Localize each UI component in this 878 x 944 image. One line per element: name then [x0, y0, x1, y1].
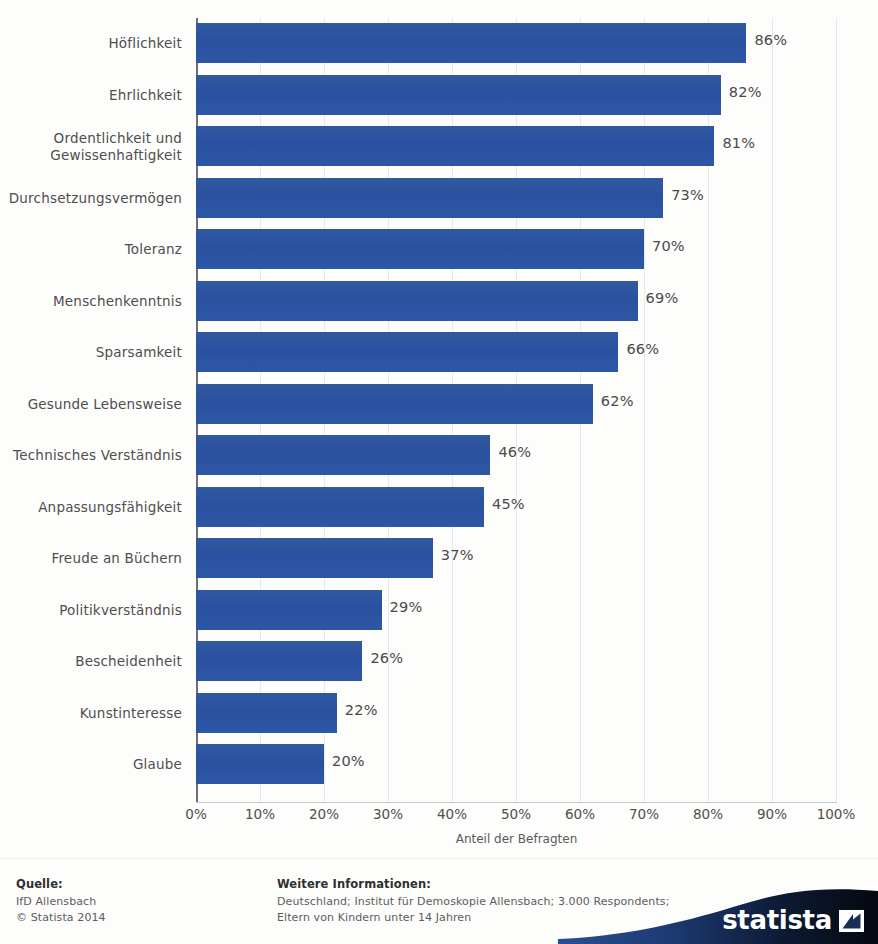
source-block: Quelle: IfD Allensbach © Statista 2014	[16, 877, 106, 925]
category-label: Sparsamkeit	[0, 327, 182, 379]
x-axis-line	[196, 802, 837, 803]
bar-value-label: 82%	[729, 84, 762, 100]
bar	[196, 590, 382, 630]
bar-value-label: 26%	[370, 650, 403, 666]
bar-value-label: 81%	[722, 135, 755, 151]
category-label: Freude an Büchern	[0, 533, 182, 585]
category-label: Bescheidenheit	[0, 636, 182, 688]
bar-value-label: 73%	[671, 187, 704, 203]
bar-value-label: 70%	[652, 238, 685, 254]
category-label: Durchsetzungsvermögen	[0, 173, 182, 225]
bar-chart: HöflichkeitEhrlichkeitOrdentlichkeit und…	[0, 0, 878, 855]
bar	[196, 332, 618, 372]
bar	[196, 75, 721, 115]
bar	[196, 538, 433, 578]
bar-rows: 86%82%81%73%70%69%66%62%46%45%37%29%26%2…	[196, 18, 878, 802]
bar	[196, 384, 593, 424]
x-tick-label: 70%	[629, 806, 659, 822]
category-label: Technisches Verständnis	[0, 430, 182, 482]
logo-wordmark: statista	[722, 905, 832, 935]
x-tick-label: 30%	[373, 806, 403, 822]
statista-chart-page: HöflichkeitEhrlichkeitOrdentlichkeit und…	[0, 0, 878, 944]
category-label: Politikverständnis	[0, 585, 182, 637]
category-label: Glaube	[0, 739, 182, 791]
bar	[196, 744, 324, 784]
bar-value-label: 37%	[441, 547, 474, 563]
bar-value-label: 29%	[390, 599, 423, 615]
x-axis-ticks: 0%10%20%30%40%50%60%70%80%90%100%	[196, 806, 837, 828]
bar	[196, 126, 714, 166]
x-tick-label: 60%	[565, 806, 595, 822]
bar-value-label: 86%	[754, 32, 787, 48]
bar-row: 70%	[196, 224, 878, 276]
bar	[196, 693, 337, 733]
category-label: Toleranz	[0, 224, 182, 276]
bar	[196, 281, 638, 321]
bar-value-label: 62%	[601, 393, 634, 409]
bar-row: 46%	[196, 430, 878, 482]
bar-row: 66%	[196, 327, 878, 379]
category-label: Gesunde Lebensweise	[0, 379, 182, 431]
x-tick-label: 10%	[245, 806, 275, 822]
bar-row: 62%	[196, 379, 878, 431]
category-label: Höflichkeit	[0, 18, 182, 70]
x-tick-label: 80%	[693, 806, 723, 822]
bar-row: 86%	[196, 18, 878, 70]
bar	[196, 178, 663, 218]
bar-value-label: 20%	[332, 753, 365, 769]
x-axis-title: Anteil der Befragten	[196, 832, 837, 846]
logo-arrow-icon	[839, 910, 864, 932]
bar-row: 82%	[196, 70, 878, 122]
category-label: Menschenkenntnis	[0, 276, 182, 328]
bar-value-label: 45%	[492, 496, 525, 512]
bar-row: 81%	[196, 121, 878, 173]
category-axis-labels: HöflichkeitEhrlichkeitOrdentlichkeit und…	[0, 18, 182, 802]
bar-value-label: 46%	[498, 444, 531, 460]
bar	[196, 435, 490, 475]
bar-row: 73%	[196, 173, 878, 225]
source-line: IfD Allensbach	[16, 894, 106, 910]
x-tick-label: 0%	[185, 806, 206, 822]
bar-row: 22%	[196, 688, 878, 740]
bar-row: 37%	[196, 533, 878, 585]
bar-value-label: 66%	[626, 341, 659, 357]
bar-row: 29%	[196, 585, 878, 637]
category-label: Kunstinteresse	[0, 688, 182, 740]
x-tick-label: 20%	[309, 806, 339, 822]
category-label: Ordentlichkeit und Gewissenhaftigkeit	[0, 121, 182, 173]
bar-value-label: 69%	[646, 290, 679, 306]
bar	[196, 23, 746, 63]
bar-row: 20%	[196, 739, 878, 791]
statista-logo: statista	[558, 879, 878, 944]
x-tick-label: 40%	[437, 806, 467, 822]
copyright-line: © Statista 2014	[16, 910, 106, 926]
bar	[196, 229, 644, 269]
chart-footer: Quelle: IfD Allensbach © Statista 2014 W…	[0, 858, 878, 944]
x-tick-label: 100%	[817, 806, 856, 822]
bar	[196, 641, 362, 681]
category-label: Ehrlichkeit	[0, 70, 182, 122]
bar	[196, 487, 484, 527]
category-label: Anpassungsfähigkeit	[0, 482, 182, 534]
bar-value-label: 22%	[345, 702, 378, 718]
source-heading: Quelle:	[16, 877, 106, 891]
bar-row: 69%	[196, 276, 878, 328]
x-tick-label: 90%	[757, 806, 787, 822]
bar-row: 26%	[196, 636, 878, 688]
x-tick-label: 50%	[501, 806, 531, 822]
bar-row: 45%	[196, 482, 878, 534]
